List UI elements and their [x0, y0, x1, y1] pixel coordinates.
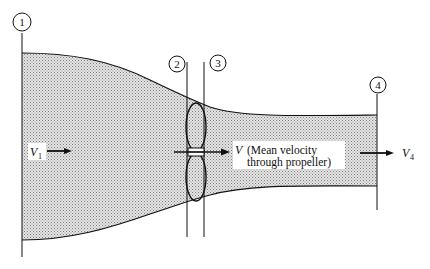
station-3-label: 3 — [215, 57, 221, 69]
v4-subscript: 4 — [410, 153, 414, 162]
v1-subscript: 1 — [38, 152, 42, 161]
propeller-streamtube-diagram: 1 2 3 4 V 1 V (Mean ve — [0, 0, 430, 269]
station-1-label: 1 — [19, 16, 25, 28]
v-prop-label: V (Mean velocity through propeller) — [233, 141, 345, 169]
v-prop-note-line2: through propeller) — [247, 156, 331, 169]
station-2-label: 2 — [174, 58, 180, 70]
station-4-label: 4 — [375, 79, 381, 91]
